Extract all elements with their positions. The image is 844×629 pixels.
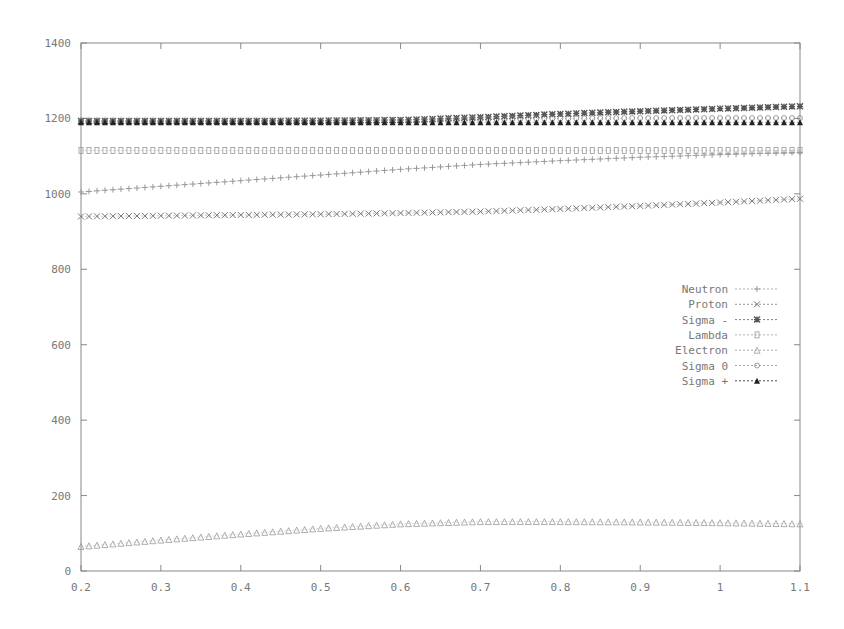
legend-label: Sigma + [682, 375, 729, 388]
y-tick-label: 200 [51, 490, 71, 503]
legend-label: Neutron [682, 283, 728, 296]
x-tick-label: 1 [717, 581, 724, 594]
legend-label: Sigma - [682, 314, 728, 327]
series-lambda [79, 147, 802, 153]
x-tick-label: 1.1 [790, 581, 810, 594]
chart-container: 0.20.30.40.50.60.70.80.911.1020040060080… [0, 0, 844, 629]
legend-label: Sigma 0 [682, 360, 728, 373]
x-tick-label: 0.5 [311, 581, 331, 594]
legend-label: Proton [688, 298, 728, 311]
x-tick-label: 0.6 [391, 581, 411, 594]
y-tick-label: 600 [51, 339, 71, 352]
legend-label: Lambda [688, 329, 728, 342]
x-tick-label: 0.2 [71, 581, 91, 594]
line-chart: 0.20.30.40.50.60.70.80.911.1020040060080… [0, 0, 844, 629]
x-tick-label: 0.7 [471, 581, 491, 594]
y-tick-label: 400 [51, 414, 71, 427]
series-electron [78, 519, 803, 550]
x-tick-label: 0.9 [630, 581, 650, 594]
y-tick-label: 1400 [45, 37, 72, 50]
legend: NeutronProtonSigma -LambdaElectronSigma … [675, 283, 778, 388]
y-tick-label: 0 [64, 565, 71, 578]
y-tick-label: 1200 [45, 112, 72, 125]
series-neutron [78, 149, 803, 195]
x-tick-label: 0.3 [151, 581, 171, 594]
x-tick-label: 0.8 [550, 581, 570, 594]
x-tick-label: 0.4 [231, 581, 251, 594]
series-proton [78, 196, 803, 220]
legend-label: Electron [675, 344, 728, 357]
y-tick-label: 800 [51, 263, 71, 276]
y-tick-label: 1000 [45, 188, 72, 201]
